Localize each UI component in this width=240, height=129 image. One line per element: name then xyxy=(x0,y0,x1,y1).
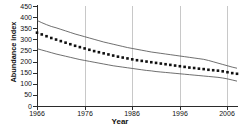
data-point-marker xyxy=(198,67,201,70)
data-point-marker xyxy=(160,62,163,65)
y-tick-mark xyxy=(33,62,37,63)
y-tick-mark xyxy=(33,50,37,51)
y-tick-mark xyxy=(33,6,37,7)
data-point-marker xyxy=(188,66,191,69)
data-point-marker xyxy=(102,52,105,55)
y-tick-mark xyxy=(33,84,37,85)
data-point-marker xyxy=(98,51,101,54)
data-point-marker xyxy=(50,37,53,40)
data-point-marker xyxy=(236,72,239,75)
abundance-index-markers xyxy=(36,31,239,75)
data-point-marker xyxy=(131,58,134,61)
data-point-marker xyxy=(112,54,115,57)
data-point-marker xyxy=(36,31,39,34)
series-layer xyxy=(0,0,240,129)
data-point-marker xyxy=(93,50,96,53)
y-tick-mark xyxy=(33,28,37,29)
x-axis-title: Year xyxy=(0,117,240,127)
data-point-marker xyxy=(88,48,91,51)
data-point-marker xyxy=(145,60,148,63)
y-tick-mark xyxy=(33,17,37,18)
data-point-marker xyxy=(117,55,120,58)
data-point-marker xyxy=(207,68,210,71)
data-point-marker xyxy=(79,46,82,49)
data-point-marker xyxy=(69,43,72,46)
data-point-marker xyxy=(169,64,172,67)
data-point-marker xyxy=(55,38,58,41)
data-point-marker xyxy=(164,63,167,66)
data-point-marker xyxy=(179,65,182,68)
data-point-marker xyxy=(174,64,177,67)
abundance-index-chart: Abundance index 050100150200250300350400… xyxy=(0,0,240,129)
data-point-marker xyxy=(202,68,205,71)
y-tick-mark xyxy=(33,106,37,107)
data-point-marker xyxy=(150,61,153,64)
data-point-marker xyxy=(121,56,124,59)
data-point-marker xyxy=(45,35,48,38)
y-tick-mark xyxy=(33,73,37,74)
data-point-marker xyxy=(226,71,229,74)
data-point-marker xyxy=(217,69,220,72)
data-point-marker xyxy=(221,70,224,73)
data-point-marker xyxy=(136,59,139,62)
data-point-marker xyxy=(193,67,196,70)
data-point-marker xyxy=(212,69,215,72)
y-tick-mark xyxy=(33,95,37,96)
data-point-marker xyxy=(126,57,129,60)
lower-confidence-line xyxy=(37,49,237,81)
data-point-marker xyxy=(40,33,43,36)
data-point-marker xyxy=(140,60,143,63)
data-point-marker xyxy=(60,40,63,43)
data-point-marker xyxy=(74,44,77,47)
data-point-marker xyxy=(231,72,234,75)
data-point-marker xyxy=(83,47,86,50)
y-tick-mark xyxy=(33,39,37,40)
data-point-marker xyxy=(64,41,67,44)
data-point-marker xyxy=(183,66,186,69)
data-point-marker xyxy=(155,62,158,65)
data-point-marker xyxy=(107,53,110,56)
